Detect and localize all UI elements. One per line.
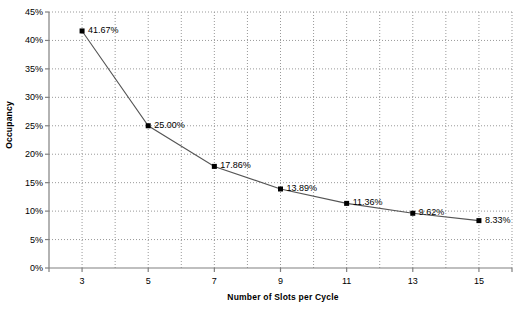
data-point-label: 13.89% [287, 183, 318, 193]
data-point-label: 11.36% [353, 197, 383, 207]
y-tick-label: 20% [25, 149, 43, 159]
data-point-label: 41.67% [88, 25, 119, 35]
x-tick-label: 5 [146, 276, 151, 286]
data-point-label: 17.86% [220, 160, 251, 170]
x-axis-title: Number of Slots per Cycle [0, 292, 528, 302]
x-tick-label: 13 [408, 276, 418, 286]
y-tick-label: 10% [25, 206, 43, 216]
y-tick-label: 15% [25, 178, 43, 188]
x-tick-label: 11 [342, 276, 351, 286]
data-point-label: 25.00% [154, 120, 185, 130]
y-tick-label: 30% [25, 92, 43, 102]
y-tick-label: 35% [25, 64, 43, 74]
x-tick-label: 15 [474, 276, 484, 286]
y-tick-label: 45% [25, 7, 43, 17]
x-axis-tick-labels: 3579111315 [0, 272, 528, 292]
x-tick-label: 7 [212, 276, 217, 286]
y-tick-label: 25% [25, 121, 43, 131]
data-point-label: 8.33% [485, 215, 511, 225]
chart-container: Occupancy Number of Slots per Cycle 0%5%… [0, 0, 528, 313]
y-gridlines [49, 12, 512, 240]
y-axis-tick-labels: 0%5%10%15%20%25%30%35%40%45% [6, 0, 43, 313]
plot-area [0, 0, 528, 313]
x-tick-label: 9 [278, 276, 283, 286]
y-tick-label: 5% [30, 235, 43, 245]
x-tick-label: 3 [80, 276, 85, 286]
axis-lines [49, 12, 512, 268]
x-gridlines [82, 12, 512, 268]
data-point-label: 9.62% [419, 207, 445, 217]
y-tick-label: 40% [25, 35, 43, 45]
